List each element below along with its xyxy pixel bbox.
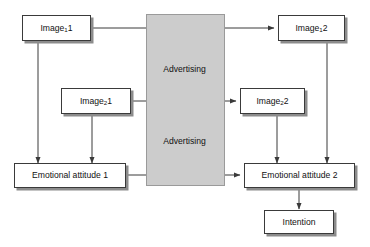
node-image-1-1[interactable]: Image11 bbox=[22, 15, 91, 41]
node-image-2-1-label: Image21 bbox=[80, 97, 112, 106]
node-image-2-2[interactable]: Image22 bbox=[240, 88, 305, 114]
node-intention[interactable]: Intention bbox=[264, 210, 334, 234]
node-intention-label: Intention bbox=[283, 218, 316, 227]
node-image-1-1-label: Image11 bbox=[40, 24, 72, 33]
node-emotional-attitude-2[interactable]: Emotional attitude 2 bbox=[244, 163, 355, 188]
node-emotional-attitude-1[interactable]: Emotional attitude 1 bbox=[14, 163, 126, 188]
node-image-1-2-label: Image12 bbox=[295, 24, 327, 33]
node-emotional-attitude-2-label: Emotional attitude 2 bbox=[262, 171, 338, 180]
advertising-label-bottom: Advertising bbox=[146, 136, 223, 146]
advertising-label-top: Advertising bbox=[146, 64, 223, 74]
node-image-2-2-label: Image22 bbox=[256, 97, 288, 106]
diagram-canvas: Advertising Advertising Image11 Image12 … bbox=[0, 0, 370, 247]
node-image-2-1[interactable]: Image21 bbox=[61, 88, 131, 114]
node-image-1-2[interactable]: Image12 bbox=[278, 15, 345, 41]
advertising-band bbox=[146, 14, 225, 186]
node-emotional-attitude-1-label: Emotional attitude 1 bbox=[32, 171, 108, 180]
